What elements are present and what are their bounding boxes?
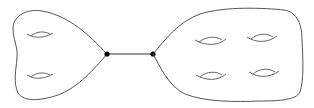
right-surface <box>153 8 303 101</box>
right-surface-outline <box>153 8 303 101</box>
right-hole-3 <box>196 72 226 79</box>
right-hole-2 <box>247 34 277 41</box>
left-surface <box>13 10 107 99</box>
left-node <box>104 51 109 56</box>
left-hole-2 <box>27 73 53 78</box>
left-surface-outline <box>13 10 107 99</box>
right-hole-4 <box>249 69 279 76</box>
right-hole-1 <box>195 37 226 44</box>
diagram-svg <box>0 0 314 108</box>
surface-diagram <box>0 0 314 108</box>
left-hole-1 <box>27 32 53 37</box>
